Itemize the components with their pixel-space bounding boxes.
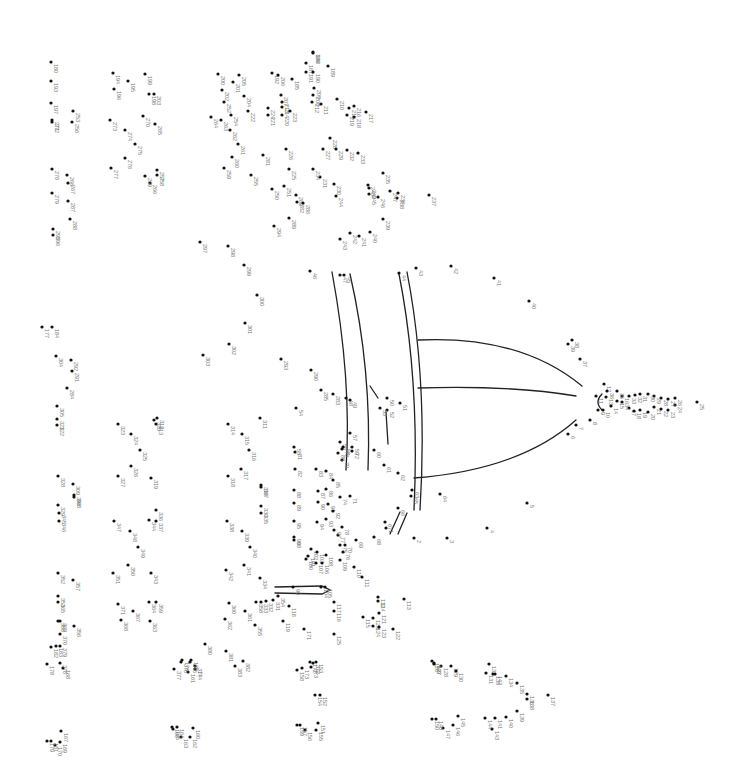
dot-marker[interactable]	[332, 609, 335, 612]
dot-marker[interactable]	[314, 467, 317, 470]
dot-182[interactable]: 182	[49, 645, 59, 658]
dot-140[interactable]: 140	[504, 715, 514, 728]
dot-marker[interactable]	[356, 151, 359, 154]
dot-marker[interactable]	[45, 739, 48, 742]
dot-marker[interactable]	[111, 571, 114, 574]
dot-347[interactable]: 347	[112, 519, 122, 532]
dot-marker[interactable]	[546, 693, 549, 696]
dot-marker[interactable]	[430, 717, 433, 720]
dot-marker[interactable]	[58, 661, 61, 664]
dot-marker[interactable]	[66, 199, 69, 202]
dot-62[interactable]: 62	[396, 471, 406, 481]
dot-180[interactable]: 180	[49, 60, 59, 73]
dot-marker[interactable]	[602, 382, 605, 385]
dot-378[interactable]: 378	[58, 661, 68, 674]
dot-349[interactable]: 349	[136, 545, 146, 558]
dot-357[interactable]: 357	[71, 578, 81, 591]
dot-237[interactable]: 237	[427, 193, 437, 206]
dot-351[interactable]: 351	[111, 571, 121, 584]
dot-marker[interactable]	[255, 293, 258, 296]
dot-283[interactable]: 283	[331, 392, 341, 405]
dot-369[interactable]: 369	[58, 619, 68, 632]
dot-marker[interactable]	[304, 557, 307, 560]
dot-marker[interactable]	[49, 79, 52, 82]
dot-marker[interactable]	[241, 659, 244, 662]
dot-137[interactable]: 137	[546, 693, 556, 706]
dot-marker[interactable]	[371, 616, 374, 619]
dot-377[interactable]: 377	[172, 667, 182, 680]
dot-marker[interactable]	[240, 432, 243, 435]
dot-marker[interactable]	[71, 482, 74, 485]
dot-marker[interactable]	[55, 423, 58, 426]
dot-marker[interactable]	[601, 408, 604, 411]
dot-261[interactable]: 261	[236, 142, 246, 155]
dot-marker[interactable]	[126, 563, 129, 566]
dot-marker[interactable]	[304, 61, 307, 64]
dot-marker[interactable]	[116, 474, 119, 477]
dot-marker[interactable]	[71, 578, 74, 581]
dot-270[interactable]: 270	[141, 114, 151, 127]
dot-marker[interactable]	[50, 191, 53, 194]
dot-marker[interactable]	[226, 422, 229, 425]
dot-marker[interactable]	[69, 358, 72, 361]
dot-marker[interactable]	[364, 110, 367, 113]
dot-316[interactable]: 316	[247, 448, 257, 461]
dot-7[interactable]: 7	[574, 423, 584, 430]
dot-marker[interactable]	[397, 271, 400, 274]
dot-marker[interactable]	[324, 487, 327, 490]
dot-marker[interactable]	[259, 483, 262, 486]
dot-367[interactable]: 367	[131, 609, 141, 622]
dot-marker[interactable]	[280, 100, 283, 103]
dot-marker[interactable]	[445, 536, 448, 539]
dot-marker[interactable]	[270, 187, 273, 190]
dot-marker[interactable]	[345, 148, 348, 151]
dot-marker[interactable]	[152, 418, 155, 421]
dot-marker[interactable]	[288, 109, 291, 112]
dot-184[interactable]: 184	[50, 325, 60, 338]
dot-marker[interactable]	[314, 561, 317, 564]
dot-334[interactable]: 334	[258, 576, 268, 589]
dot-315[interactable]: 315	[240, 432, 250, 445]
dot-marker[interactable]	[338, 495, 341, 498]
dot-marker[interactable]	[58, 644, 61, 647]
dot-marker[interactable]	[311, 93, 314, 96]
dot-61[interactable]: 61	[382, 463, 392, 473]
dot-325[interactable]: 325	[138, 448, 148, 461]
dot-300[interactable]: 300	[255, 293, 265, 306]
dot-marker[interactable]	[72, 624, 75, 627]
dot-marker[interactable]	[336, 451, 339, 454]
dot-marker[interactable]	[695, 400, 698, 403]
dot-marker[interactable]	[126, 79, 129, 82]
dot-marker[interactable]	[287, 167, 290, 170]
dot-51[interactable]: 51	[398, 401, 408, 411]
dot-marker[interactable]	[352, 565, 355, 568]
dot-146[interactable]: 146	[451, 723, 461, 736]
dot-marker[interactable]	[254, 600, 257, 603]
dot-368[interactable]: 368	[119, 618, 129, 631]
dot-marker[interactable]	[141, 114, 144, 117]
dot-marker[interactable]	[191, 726, 194, 729]
dot-marker[interactable]	[216, 72, 219, 75]
dot-marker[interactable]	[332, 600, 335, 603]
dot-marker[interactable]	[276, 594, 279, 597]
dot-361[interactable]: 361	[243, 609, 253, 622]
dot-69[interactable]: 69	[354, 538, 364, 548]
dot-marker[interactable]	[49, 645, 52, 648]
dot-marker[interactable]	[231, 80, 234, 83]
dot-marker[interactable]	[59, 729, 62, 732]
dot-marker[interactable]	[427, 193, 430, 196]
dot-marker[interactable]	[50, 325, 53, 328]
dot-178[interactable]: 178	[45, 662, 55, 675]
dot-177[interactable]: 177	[40, 325, 50, 338]
dot-marker[interactable]	[451, 723, 454, 726]
dot-marker[interactable]	[246, 109, 249, 112]
dot-marker[interactable]	[659, 407, 662, 410]
dot-marker[interactable]	[309, 665, 312, 668]
dot-298[interactable]: 298	[226, 244, 236, 257]
dot-marker[interactable]	[131, 609, 134, 612]
dot-marker[interactable]	[243, 609, 246, 612]
dot-marker[interactable]	[266, 113, 269, 116]
dot-marker[interactable]	[154, 508, 157, 511]
dot-marker[interactable]	[376, 599, 379, 602]
dot-277[interactable]: 277	[109, 166, 119, 179]
